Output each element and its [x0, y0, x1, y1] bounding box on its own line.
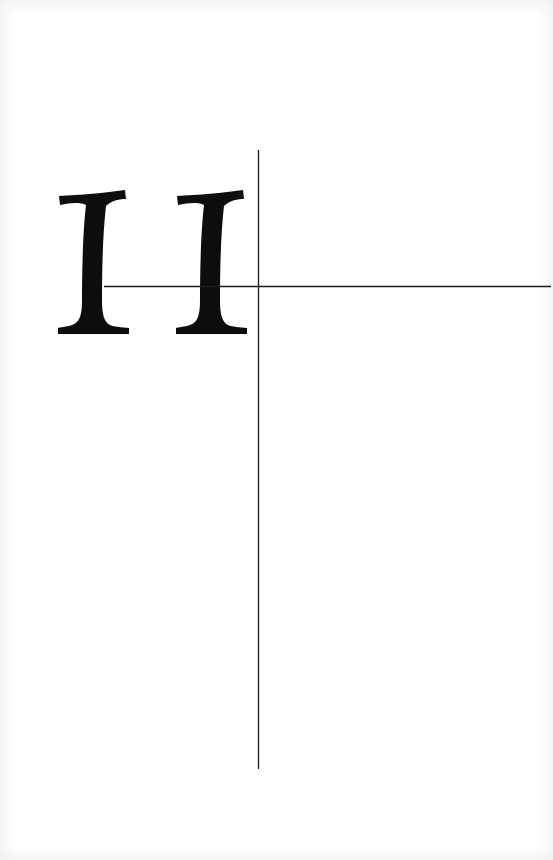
book-page: II [0, 0, 553, 860]
chapter-opener-graphic [0, 0, 553, 860]
chapter-numeral-glyph-2 [176, 190, 247, 334]
chapter-numeral-glyph-1 [58, 190, 129, 334]
